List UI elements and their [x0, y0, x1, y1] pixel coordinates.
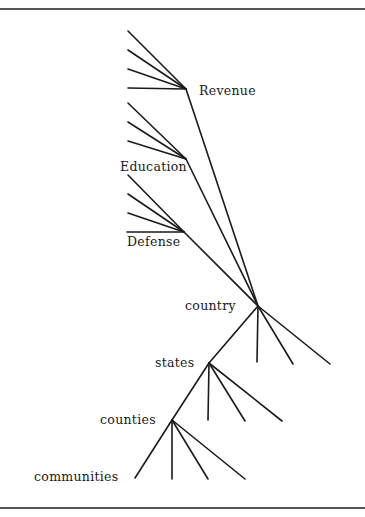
tree-edge [128, 194, 184, 232]
tree-edges [127, 31, 330, 479]
node-label-states: states [155, 355, 195, 370]
node-label-counties: counties [100, 412, 156, 427]
tree-edge [258, 306, 293, 364]
tree-edge [186, 89, 258, 306]
tree-edge [257, 306, 258, 362]
tree-edge [128, 175, 184, 232]
tree-edge [128, 69, 186, 89]
node-label-country: country [185, 298, 236, 313]
node-label-defense: Defense [127, 234, 180, 249]
tree-edge [128, 31, 186, 89]
tree-edge [184, 232, 258, 306]
tree-edge [172, 363, 209, 420]
hierarchy-tree-diagram: Revenue Education Defense country states… [0, 0, 365, 517]
node-label-communities: communities [34, 469, 118, 484]
tree-edge [209, 363, 245, 421]
tree-edge [208, 363, 209, 420]
tree-edge [258, 306, 330, 364]
tree-edge [186, 159, 258, 306]
tree-edge [209, 306, 258, 363]
tree-edge [135, 420, 172, 478]
tree-edge [172, 420, 245, 479]
tree-edge [128, 50, 186, 89]
tree-edge [128, 88, 186, 89]
tree-edge [209, 363, 282, 421]
node-label-revenue: Revenue [199, 83, 256, 98]
tree-edge [172, 420, 208, 479]
tree-edge [128, 122, 186, 159]
node-label-education: Education [120, 159, 187, 174]
